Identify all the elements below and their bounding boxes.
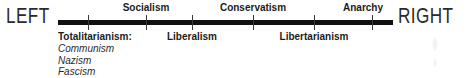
axis-label-totalitarianism: Totalitarianism: <box>58 31 132 43</box>
spectrum-axis-line <box>58 20 393 25</box>
axis-tick-2 <box>146 15 147 30</box>
background-watermark-icon <box>424 34 446 74</box>
axis-tick-6 <box>372 15 373 30</box>
axis-tick-4 <box>253 15 254 30</box>
axis-tick-1 <box>88 15 89 30</box>
political-spectrum-figure: LEFT RIGHT Socialism Conservatism Anarch… <box>0 0 474 78</box>
axis-tick-5 <box>314 15 315 30</box>
totalitarianism-examples-list: Communism Nazism Fascism <box>58 43 114 78</box>
axis-label-liberalism: Liberalism <box>167 31 217 43</box>
totalitarianism-example-nazism: Nazism <box>58 55 114 67</box>
axis-label-socialism: Socialism <box>123 2 170 14</box>
pole-label-left: LEFT <box>6 5 50 27</box>
totalitarianism-example-communism: Communism <box>58 43 114 55</box>
axis-label-conservatism: Conservatism <box>220 2 286 14</box>
axis-label-libertarianism: Libertarianism <box>280 31 349 43</box>
axis-tick-3 <box>192 15 193 30</box>
pole-label-right: RIGHT <box>398 5 453 27</box>
axis-label-anarchy: Anarchy <box>343 2 383 14</box>
totalitarianism-example-fascism: Fascism <box>58 66 114 78</box>
